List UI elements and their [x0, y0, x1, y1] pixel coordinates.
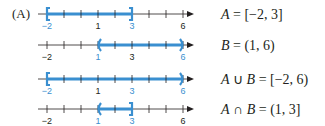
tick-label: −2	[42, 86, 52, 96]
arrow-head-icon	[187, 42, 194, 48]
eq-lhs: A	[221, 72, 230, 87]
tick-label: 3	[129, 52, 134, 62]
tick-label: 3	[129, 21, 134, 31]
intersection-symbol: ∩	[233, 102, 243, 117]
eq-rhs-set: B	[247, 102, 256, 117]
eq-value: = (1, 3]	[259, 102, 301, 117]
tick-label: 1	[95, 116, 100, 126]
arrow-head-icon	[187, 76, 194, 82]
tick-label: −2	[42, 21, 52, 31]
tick-label: −2	[42, 52, 52, 62]
eq-rhs-set: B	[247, 72, 256, 87]
tick-label: 6	[180, 86, 185, 96]
equation-b: B = (1, 6)	[221, 38, 275, 54]
eq-lhs: A	[221, 7, 230, 22]
arrow-head-icon	[187, 11, 194, 17]
equation-intersection: A ∩ B = (1, 3]	[221, 102, 300, 118]
tick-label: 6	[180, 116, 185, 126]
union-symbol: ∪	[233, 72, 243, 87]
tick-label: 6	[180, 52, 185, 62]
tick-label: 1	[95, 21, 100, 31]
arrow-head-icon	[187, 106, 194, 112]
tick-label: 3	[129, 86, 134, 96]
equation-a: A = [−2, 3]	[221, 7, 283, 23]
eq-value: = [−2, 6)	[259, 72, 309, 87]
tick-label: 6	[180, 21, 185, 31]
tick-label: 1	[95, 86, 100, 96]
eq-lhs: B	[221, 38, 230, 53]
tick-label: −2	[42, 116, 52, 126]
eq-value: = [−2, 3]	[233, 7, 283, 22]
eq-lhs: A	[221, 102, 230, 117]
equation-union: A ∪ B = [−2, 6)	[221, 71, 308, 88]
eq-value: = (1, 6)	[233, 38, 275, 53]
tick-label: 3	[129, 116, 134, 126]
tick-label: 1	[95, 52, 100, 62]
